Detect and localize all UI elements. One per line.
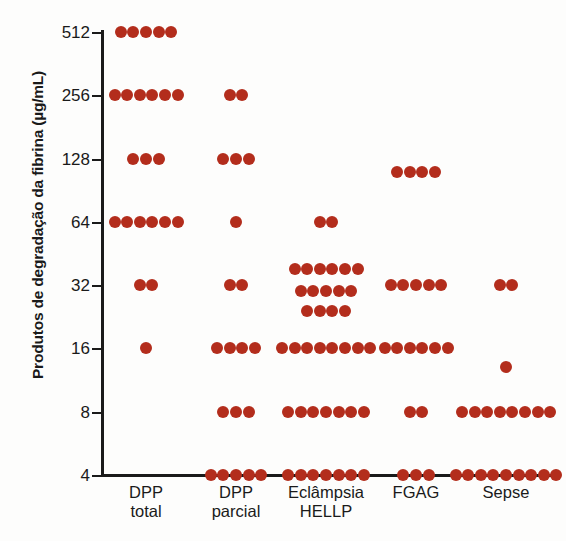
- data-point: [404, 342, 416, 354]
- data-point: [236, 279, 248, 291]
- y-tick-512: [92, 32, 101, 34]
- data-point: [391, 166, 403, 178]
- data-point: [140, 342, 152, 354]
- data-point: [314, 305, 326, 317]
- data-point: [416, 342, 428, 354]
- data-point: [115, 26, 127, 38]
- data-point: [230, 469, 242, 481]
- data-point: [352, 342, 364, 354]
- data-point: [450, 469, 462, 481]
- plot-area: 48163264128256512: [101, 32, 551, 475]
- data-point: [289, 263, 301, 275]
- data-point: [224, 342, 236, 354]
- data-point: [513, 469, 525, 481]
- data-point: [134, 279, 146, 291]
- data-point: [211, 342, 223, 354]
- data-point: [358, 469, 370, 481]
- data-point: [217, 153, 229, 165]
- data-point: [345, 469, 357, 481]
- data-point: [249, 342, 261, 354]
- y-tick-label-256: 256: [62, 87, 90, 104]
- data-point: [333, 406, 345, 418]
- data-point: [358, 406, 370, 418]
- data-point: [140, 26, 152, 38]
- data-point: [301, 342, 313, 354]
- data-point: [333, 285, 345, 297]
- data-point: [301, 305, 313, 317]
- data-point: [416, 166, 428, 178]
- data-point: [230, 216, 242, 228]
- data-point: [172, 89, 184, 101]
- data-point: [435, 279, 447, 291]
- data-point: [134, 216, 146, 228]
- data-point: [391, 342, 403, 354]
- data-point: [109, 89, 121, 101]
- data-point: [282, 469, 294, 481]
- data-point: [109, 216, 121, 228]
- data-point: [410, 469, 422, 481]
- data-point: [243, 153, 255, 165]
- data-point: [538, 469, 550, 481]
- data-point: [397, 279, 409, 291]
- x-category-label-3: FGAG: [393, 483, 440, 502]
- y-tick-16: [92, 348, 101, 350]
- data-point: [550, 469, 562, 481]
- data-point: [339, 342, 351, 354]
- y-tick-label-32: 32: [71, 277, 90, 294]
- data-point: [397, 469, 409, 481]
- data-point: [416, 406, 428, 418]
- data-point: [532, 406, 544, 418]
- x-category-line1: DPP: [212, 483, 261, 502]
- data-point: [301, 263, 313, 275]
- data-point: [146, 216, 158, 228]
- data-point: [385, 279, 397, 291]
- data-point: [282, 406, 294, 418]
- data-point: [456, 406, 468, 418]
- y-tick-label-4: 4: [81, 467, 90, 484]
- x-category-line2: parcial: [212, 502, 261, 521]
- x-category-line1: Sepse: [483, 483, 530, 502]
- data-point: [289, 342, 301, 354]
- data-point: [364, 342, 376, 354]
- data-point: [519, 406, 531, 418]
- data-point: [506, 279, 518, 291]
- data-point: [146, 279, 158, 291]
- data-point: [140, 153, 152, 165]
- data-point: [379, 342, 391, 354]
- data-point: [320, 406, 332, 418]
- data-point: [307, 406, 319, 418]
- data-point: [404, 166, 416, 178]
- data-point: [404, 406, 416, 418]
- chart-figure: Produtos de degradação da fibrina (µg/mL…: [0, 0, 566, 541]
- data-point: [172, 216, 184, 228]
- data-point: [494, 279, 506, 291]
- data-point: [320, 285, 332, 297]
- x-category-line1: Eclâmpsia: [288, 483, 364, 502]
- x-category-label-4: Sepse: [483, 483, 530, 502]
- data-point: [121, 89, 133, 101]
- data-point: [506, 406, 518, 418]
- data-point: [442, 342, 454, 354]
- data-point: [134, 89, 146, 101]
- data-point: [339, 305, 351, 317]
- x-category-line2: HELLP: [288, 502, 364, 521]
- y-tick-label-128: 128: [62, 150, 90, 167]
- data-point: [224, 279, 236, 291]
- data-point: [326, 263, 338, 275]
- data-point: [295, 285, 307, 297]
- data-point: [217, 406, 229, 418]
- data-point: [423, 279, 435, 291]
- x-category-label-0: DPPtotal: [129, 483, 163, 521]
- data-point: [276, 342, 288, 354]
- data-point: [121, 216, 133, 228]
- data-point: [525, 469, 537, 481]
- y-tick-32: [92, 285, 101, 287]
- x-category-label-1: DPPparcial: [212, 483, 261, 521]
- data-point: [352, 263, 364, 275]
- data-point: [326, 216, 338, 228]
- x-category-line2: total: [129, 502, 163, 521]
- data-point: [205, 469, 217, 481]
- data-point: [255, 469, 267, 481]
- data-point: [153, 153, 165, 165]
- data-point: [243, 469, 255, 481]
